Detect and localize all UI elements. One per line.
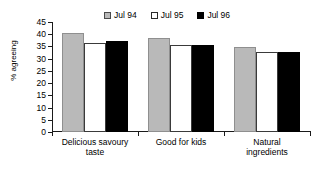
y-axis-tick-label: 40: [16, 30, 46, 39]
y-axis-tick-label: 0: [16, 128, 46, 137]
legend-label: Jul 96: [207, 11, 230, 20]
bar-jul-95-2: [170, 45, 192, 132]
chart-legend: Jul 94Jul 95Jul 96: [104, 11, 230, 20]
legend-label: Jul 94: [114, 11, 137, 20]
bar-jul-96-1: [106, 41, 128, 132]
bar-jul-94-2: [148, 38, 170, 132]
bar-chart: % agreeing 051015202530354045 Delicious …: [0, 0, 325, 172]
y-axis-tick-label: 25: [16, 67, 46, 76]
category-label-line-1: Good for kids: [138, 137, 224, 147]
y-axis-tick-label: 45: [16, 18, 46, 27]
y-axis-tick-label: 20: [16, 79, 46, 88]
x-axis-category-label: Delicious savourytaste: [52, 137, 138, 157]
bar-jul-94-3: [234, 47, 256, 132]
y-axis-tick-label: 10: [16, 104, 46, 113]
legend-item-jul-95[interactable]: Jul 95: [151, 11, 184, 20]
bar-jul-95-1: [84, 43, 106, 132]
y-axis-tick-label: 15: [16, 91, 46, 100]
y-axis-tick-label: 5: [16, 116, 46, 125]
bar-jul-96-2: [192, 45, 214, 132]
x-axis-tick: [224, 132, 225, 136]
category-label-line-2: taste: [52, 147, 138, 157]
x-axis-tick: [52, 132, 53, 136]
legend-item-jul-94[interactable]: Jul 94: [104, 11, 137, 20]
category-label-line-2: ingredients: [224, 147, 310, 157]
x-axis-tick: [310, 132, 311, 136]
y-axis-tick-label: 35: [16, 42, 46, 51]
bar-jul-95-3: [256, 52, 278, 132]
bar-jul-94-1: [62, 33, 84, 132]
legend-swatch-icon: [104, 12, 111, 19]
y-axis-tick-label: 30: [16, 55, 46, 64]
x-axis-category-label: Naturalingredients: [224, 137, 310, 157]
plot-area: [52, 22, 310, 132]
category-label-line-1: Natural: [224, 137, 310, 147]
x-axis-tick: [138, 132, 139, 136]
legend-item-jul-96[interactable]: Jul 96: [197, 11, 230, 20]
bar-jul-96-3: [278, 52, 300, 132]
legend-swatch-icon: [197, 12, 204, 19]
category-label-line-1: Delicious savoury: [52, 137, 138, 147]
x-axis-category-label: Good for kids: [138, 137, 224, 147]
legend-label: Jul 95: [161, 11, 184, 20]
legend-swatch-icon: [151, 12, 158, 19]
